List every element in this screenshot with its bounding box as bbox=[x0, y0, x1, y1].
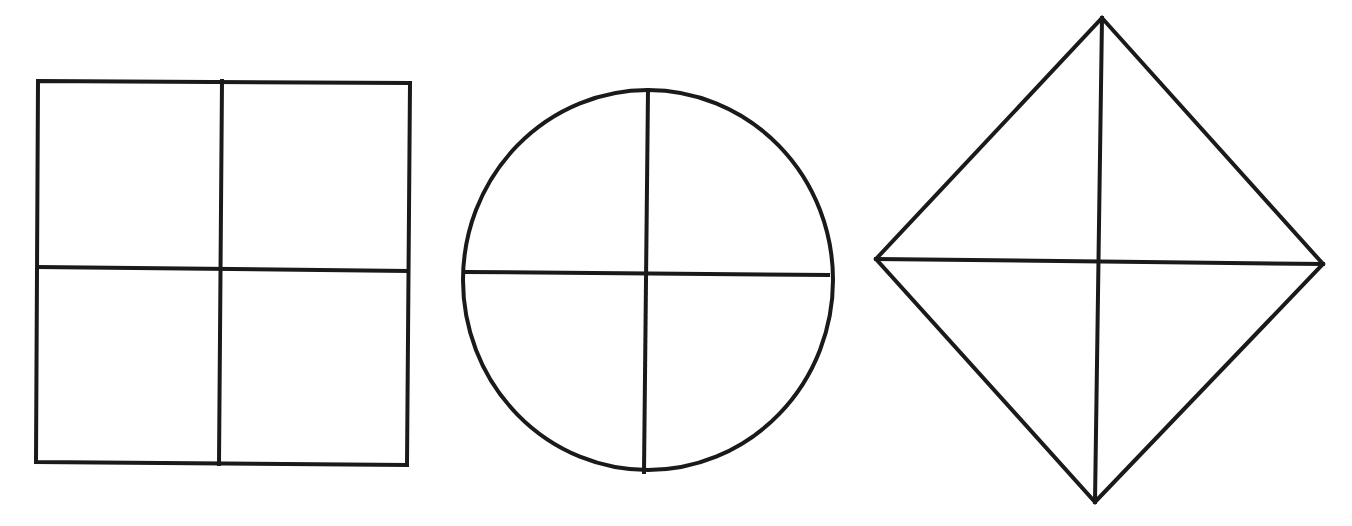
shapes-canvas bbox=[0, 0, 1352, 526]
